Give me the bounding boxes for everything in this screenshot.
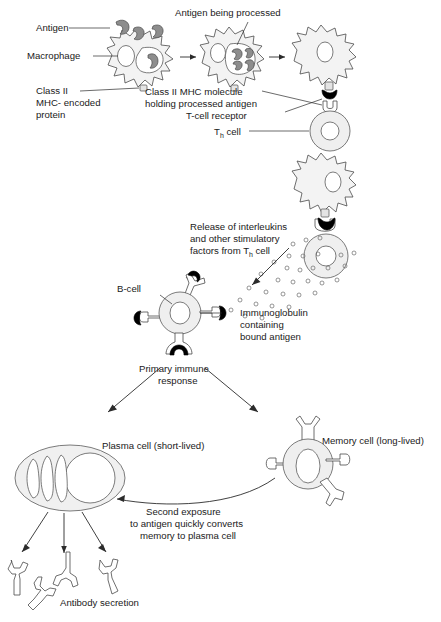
label-release-line2: and other stimulatory <box>190 233 280 244</box>
label-t-cell-receptor: T-cell receptor <box>186 110 248 121</box>
macrophage-4-nucleus <box>325 172 341 192</box>
b-cell-receptor-left <box>134 311 160 325</box>
b-cell-receptor-bottom <box>166 333 192 355</box>
label-second-exposure-line3: memory to plasma cell <box>140 530 236 541</box>
label-b-cell: B-cell <box>117 283 141 294</box>
processed-antigen-presented <box>322 90 337 99</box>
label-antibody-secretion: Antibody secretion <box>60 597 139 608</box>
memory-cell-nucleus <box>296 449 320 483</box>
secreted-antibody-3 <box>53 552 78 587</box>
label-th-cell: Th cell <box>214 126 241 139</box>
class-ii-mhc-molecule-2 <box>321 209 329 217</box>
macrophage-1-nucleus <box>118 46 135 67</box>
label-plasma-cell: Plasma cell (short-lived) <box>102 440 204 451</box>
th-cell-1-nucleus <box>321 122 339 140</box>
label-release-line3: factors from Th cell <box>190 245 270 258</box>
memory-cell-receptor-bottom-right <box>320 478 344 506</box>
immune-response-diagram: Antigen Macrophage Class II MHC- encoded… <box>0 0 441 622</box>
macrophage-4 <box>292 153 356 217</box>
leader-mhc-holding <box>262 91 322 105</box>
label-class-ii-line1: Class II <box>36 85 68 96</box>
label-mhc-holding-line1: Class II MHC molecule <box>145 86 243 97</box>
label-antigen: Antigen <box>36 22 69 33</box>
label-immunoglobulin-line1: Immunoglobulin <box>240 307 308 318</box>
arrow-primary-right <box>205 368 258 412</box>
label-antigen-being-processed: Antigen being processed <box>175 7 281 18</box>
secreted-antibody-2 <box>28 577 56 610</box>
class-ii-mhc-molecule-presenting <box>325 82 333 90</box>
label-immunoglobulin-line3: bound antigen <box>240 331 301 342</box>
macrophage-3 <box>292 25 356 99</box>
th-cell-1 <box>310 101 350 151</box>
arrow-secretion-center <box>61 513 67 553</box>
label-class-ii-line3: protein <box>36 109 65 120</box>
arrow-stage-2-to-3 <box>269 54 285 60</box>
diagram-canvas: Antigen Macrophage Class II MHC- encoded… <box>0 0 441 622</box>
label-immunoglobulin-line2: containing <box>240 319 284 330</box>
label-release-line1: Release of interleukins <box>190 221 287 232</box>
arrow-primary-left <box>108 368 160 412</box>
antigen-particle-1 <box>116 20 129 34</box>
arrow-secretion-left <box>22 512 48 552</box>
label-mhc-holding-line2: holding processed antigen <box>145 98 257 109</box>
arrow-secretion-right <box>82 512 106 552</box>
memory-cell <box>266 416 350 506</box>
label-class-ii-line2: MHC- encoded <box>36 97 101 108</box>
macrophage-2 <box>200 27 264 91</box>
label-macrophage: Macrophage <box>27 50 80 61</box>
secreted-antibody-4 <box>99 559 118 594</box>
plasma-cell-nucleus <box>65 453 115 503</box>
label-primary-line1: Primary immune <box>139 363 209 374</box>
plasma-cell <box>15 445 125 511</box>
macrophage-3-nucleus <box>317 42 333 62</box>
leader-class-ii <box>80 88 139 91</box>
arrow-stage-1-to-2 <box>180 54 196 60</box>
secreted-antibody-1 <box>8 560 28 595</box>
arrow-memory-to-plasma <box>117 478 275 504</box>
label-memory-cell: Memory cell (long-lived) <box>322 435 424 446</box>
label-second-exposure-line1: Second exposure <box>146 506 221 517</box>
label-primary-line2: response <box>158 375 197 386</box>
b-cell-nucleus <box>170 302 190 324</box>
antigen-particle-3 <box>152 25 163 38</box>
macrophage-2-nucleus <box>211 44 226 63</box>
macrophage-1-vacuole <box>136 47 163 73</box>
label-second-exposure-line2: to antigen quickly converts <box>130 518 243 529</box>
